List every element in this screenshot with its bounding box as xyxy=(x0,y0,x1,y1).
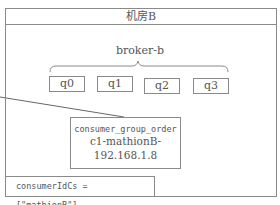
datacenter-title: 机房B xyxy=(5,8,277,25)
figure-caption-fragment xyxy=(110,199,140,205)
client-id-line2: 192.168.1.8 xyxy=(71,148,180,162)
consumer-group-label: consumer_group_order xyxy=(71,124,180,134)
consumer-box: consumer_group_order c1-mathionB- 192.16… xyxy=(70,117,181,169)
client-id-line1: c1-mathionB- xyxy=(71,134,180,148)
queue-q2: q2 xyxy=(144,78,180,94)
queue-q3: q3 xyxy=(193,78,229,94)
queue-q1: q1 xyxy=(97,76,133,92)
broker-label: broker-b xyxy=(100,44,180,57)
consumer-id-cs-box: consumerIdCs = ["mathionB"] xyxy=(5,176,155,197)
queue-q0: q0 xyxy=(49,76,85,92)
